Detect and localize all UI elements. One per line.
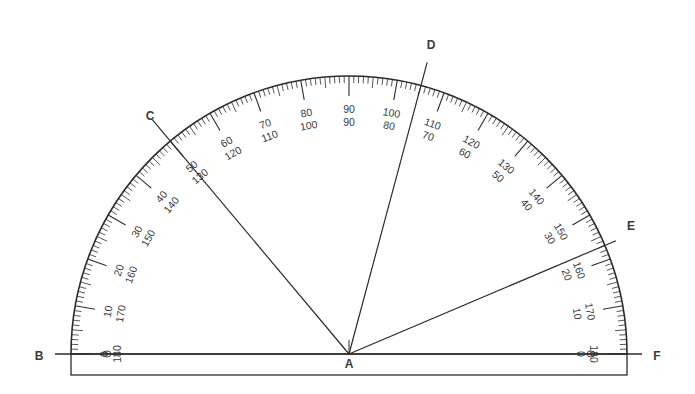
scale-tick	[534, 151, 539, 156]
scale-tick	[272, 87, 274, 94]
scale-tick	[579, 207, 585, 211]
scale-tick	[80, 282, 91, 285]
scale-number-inner: 90	[343, 116, 355, 128]
scale-tick	[325, 77, 326, 88]
scale-tick	[493, 118, 497, 124]
scale-tick	[182, 132, 186, 138]
scale-tick	[75, 306, 95, 309]
scale-tick	[210, 113, 220, 130]
scale-tick	[73, 320, 80, 321]
scale-tick	[572, 215, 589, 225]
protractor-scale-numbers: 0180101702016030150401405013060120701108…	[98, 103, 600, 363]
point-label-a: A	[345, 357, 354, 371]
scale-tick	[377, 78, 378, 85]
scale-tick	[527, 144, 532, 149]
scale-tick	[468, 104, 471, 110]
scale-tick	[106, 219, 112, 222]
scale-tick	[223, 106, 226, 112]
scale-tick	[296, 81, 297, 88]
scale-tick	[387, 79, 388, 86]
scale-tick	[159, 151, 164, 156]
scale-tick	[586, 219, 592, 222]
scale-tick	[410, 83, 412, 90]
scale-tick	[428, 88, 430, 95]
scale-tick	[277, 85, 280, 96]
protractor-svg: 0180101702016030150401405013060120701108…	[0, 0, 695, 394]
scale-tick	[306, 79, 307, 86]
scale-tick	[130, 183, 136, 187]
scale-tick	[167, 144, 172, 149]
scale-tick	[614, 296, 621, 297]
scale-tick	[538, 157, 546, 165]
scale-tick	[455, 98, 458, 104]
scale-tick	[520, 138, 524, 143]
scale-tick	[86, 263, 93, 265]
scale-tick	[82, 277, 89, 279]
scale-tick	[516, 135, 520, 141]
scale-tick	[268, 88, 270, 95]
scale-tick	[619, 325, 626, 326]
scale-number-inner: 10	[571, 307, 585, 321]
scale-tick	[547, 164, 552, 169]
scale-tick	[78, 291, 85, 293]
scale-tick	[424, 87, 426, 94]
scale-tick	[607, 282, 618, 285]
scale-tick	[97, 237, 107, 242]
scale-tick	[489, 116, 493, 122]
scale-tick	[320, 78, 321, 85]
scale-tick	[433, 90, 435, 97]
point-label-c: C	[146, 109, 155, 123]
scale-tick	[236, 100, 239, 106]
scale-tick	[240, 98, 243, 104]
scale-tick	[186, 129, 190, 135]
scale-tick	[600, 250, 606, 253]
scale-tick	[121, 195, 130, 201]
scale-tick	[610, 277, 617, 279]
scale-tick	[508, 129, 512, 135]
scale-tick	[77, 296, 84, 297]
point-label-d: D	[427, 38, 436, 52]
scale-tick	[602, 254, 609, 257]
scale-tick	[202, 118, 206, 124]
scale-tick	[391, 79, 392, 86]
scale-tick	[163, 147, 168, 152]
scale-tick	[451, 96, 454, 102]
scale-tick	[116, 203, 122, 207]
scale-tick	[615, 301, 622, 302]
scale-tick	[515, 141, 528, 156]
scale-tick	[501, 124, 505, 130]
scale-tick	[597, 241, 603, 244]
scale-tick	[198, 121, 202, 127]
scale-tick	[245, 96, 248, 102]
scale-tick	[446, 94, 449, 101]
scale-tick	[603, 306, 623, 309]
scale-tick	[590, 228, 596, 231]
scale-tick	[613, 291, 620, 293]
scale-tick	[72, 330, 83, 331]
scale-tick	[74, 311, 81, 312]
scale-tick	[405, 82, 406, 89]
scale-tick	[478, 113, 488, 130]
scale-tick	[547, 175, 562, 188]
scale-tick	[258, 91, 260, 98]
scale-tick	[104, 223, 110, 226]
scale-tick	[401, 81, 402, 88]
scale-tick	[127, 187, 133, 191]
scale-tick	[91, 250, 97, 253]
scale-tick	[178, 135, 182, 141]
scale-tick	[565, 187, 571, 191]
scale-tick	[133, 179, 138, 183]
scale-tick	[615, 330, 626, 331]
scale-tick	[568, 191, 574, 195]
scale-tick	[591, 237, 601, 242]
scale-tick	[74, 315, 81, 316]
scale-tick	[617, 311, 624, 312]
scale-tick	[581, 211, 587, 215]
scale-tick	[512, 132, 516, 138]
scale-tick	[83, 273, 90, 275]
scale-tick	[85, 268, 92, 270]
scale-tick	[93, 245, 99, 248]
scale-tick	[73, 325, 80, 326]
scale-tick	[113, 207, 119, 211]
scale-tick	[459, 100, 462, 106]
